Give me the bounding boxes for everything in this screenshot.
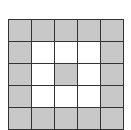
grid-cell-filled (9, 86, 32, 108)
grid-cell-filled (78, 108, 101, 130)
grid-cell-empty (78, 64, 101, 86)
grid-cell-filled (9, 64, 32, 86)
grid-cell-filled (9, 42, 32, 64)
grid-cell-filled (55, 64, 78, 86)
grid-cell-filled (78, 20, 101, 42)
grid-cell-filled (32, 20, 55, 42)
grid-cell-empty (55, 42, 78, 64)
grid-cell-filled (9, 108, 32, 130)
grid-cell-filled (101, 42, 124, 64)
grid-cell-empty (32, 42, 55, 64)
grid-cell-filled (55, 20, 78, 42)
grid-cell-filled (101, 108, 124, 130)
grid-cell-filled (32, 108, 55, 130)
grid-cell-filled (101, 20, 124, 42)
grid-cell-filled (101, 86, 124, 108)
grid-cell-empty (78, 86, 101, 108)
grid-cell-empty (32, 86, 55, 108)
grid-cell-empty (32, 64, 55, 86)
grid-cell-filled (55, 108, 78, 130)
grid-cell-empty (78, 42, 101, 64)
grid-cell-filled (9, 20, 32, 42)
pattern-grid (8, 19, 124, 130)
grid-cell-filled (101, 64, 124, 86)
grid-cell-empty (55, 86, 78, 108)
